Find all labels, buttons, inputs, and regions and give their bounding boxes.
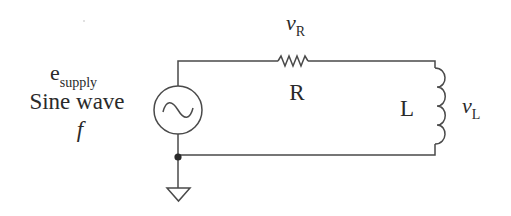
svg-text:esupply: esupply (50, 60, 97, 90)
inductor-voltage-subscript: L (472, 107, 481, 122)
inductor: L vL (400, 68, 480, 144)
resistor-zigzag (278, 56, 308, 66)
wire-source-top (178, 61, 278, 86)
supply-voltage-symbol: e (50, 60, 60, 85)
resistor-voltage-subscript: R (296, 24, 306, 39)
resistor: vR R (278, 10, 308, 105)
rl-circuit-diagram: esupply Sine wave f vR R L vL (0, 0, 511, 216)
inductor-coil (435, 68, 445, 144)
source-type-label: Sine wave (29, 89, 124, 114)
inductor-label: L (400, 96, 414, 121)
wire-bottom-right (178, 144, 435, 155)
supply-voltage-subscript: supply (60, 75, 97, 90)
sine-wave-icon (163, 103, 193, 118)
ac-source (154, 86, 202, 134)
svg-text:vL: vL (462, 93, 480, 122)
inductor-voltage-symbol: v (462, 93, 472, 118)
svg-text:vR: vR (286, 10, 306, 39)
scan-artifact (83, 20, 85, 22)
junction-node (174, 153, 181, 160)
ground-icon (167, 188, 190, 201)
resistor-voltage-symbol: v (286, 10, 296, 35)
wire-top-right (308, 61, 435, 68)
wires (178, 61, 435, 188)
resistor-label: R (289, 80, 305, 105)
frequency-label: f (77, 117, 87, 142)
source-labels: esupply Sine wave f (29, 60, 124, 142)
